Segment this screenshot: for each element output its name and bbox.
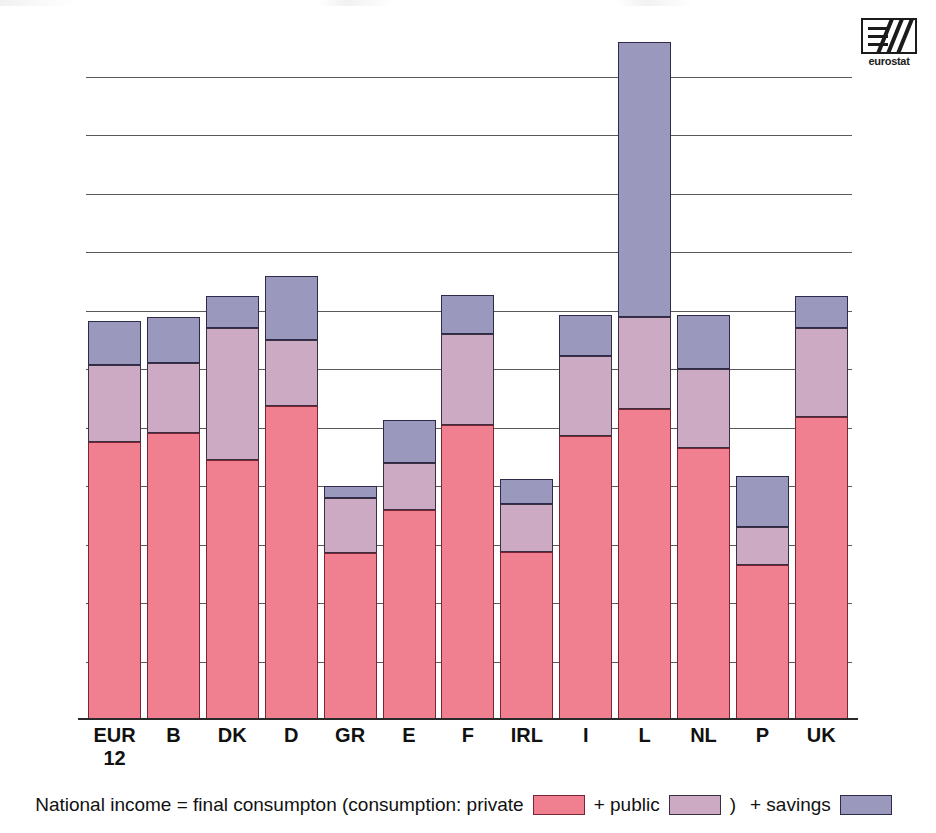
bar-segment-public: [383, 463, 436, 510]
bar-i: [559, 315, 612, 720]
x-axis-label-line: L: [638, 724, 650, 746]
bar-segment-savings: [441, 295, 494, 334]
legend-swatch-private: [533, 795, 585, 815]
gridline: [86, 135, 852, 136]
bar-segment-public: [559, 356, 612, 436]
bar-segment-public: [736, 527, 789, 565]
x-axis-label-line: E: [402, 724, 415, 746]
legend-swatch-savings: [840, 795, 892, 815]
bar-segment-savings: [88, 321, 141, 365]
bar-segment-savings: [736, 476, 789, 527]
bar-segment-private: [383, 510, 436, 721]
x-axis-label-line: DK: [218, 724, 247, 746]
bar-segment-private: [736, 565, 789, 720]
bar-segment-savings: [324, 486, 377, 498]
bar-segment-savings: [618, 42, 671, 317]
bar-segment-savings: [500, 479, 553, 504]
x-axis-category-labels: EUR12BDKDGREFIRLILNLPUK: [86, 724, 852, 778]
legend-swatch-public: [669, 795, 721, 815]
chart-plot-area: [86, 30, 852, 720]
bar-eur-12: [88, 321, 141, 720]
bar-irl: [500, 479, 553, 720]
bars-and-gridlines: [86, 30, 852, 720]
x-axis-label-line: D: [284, 724, 298, 746]
bar-segment-savings: [147, 317, 200, 364]
bar-segment-public: [88, 365, 141, 442]
bar-segment-public: [441, 334, 494, 425]
legend-public-text: + public: [594, 794, 660, 816]
eurostat-logo-mark: [861, 18, 917, 54]
gridline: [86, 77, 852, 78]
x-axis-label-line: IRL: [511, 724, 543, 746]
legend-paren-text: ): [730, 794, 736, 816]
eurostat-logo-caption: eurostat: [856, 55, 922, 67]
bar-segment-private: [206, 460, 259, 720]
scan-artifact-top: [0, 0, 936, 6]
bar-segment-savings: [795, 296, 848, 328]
eurostat-logo: eurostat: [856, 18, 922, 67]
bar-e: [383, 420, 436, 720]
bar-uk: [795, 296, 848, 720]
bar-segment-private: [618, 409, 671, 720]
x-axis-label-line: I: [583, 724, 589, 746]
x-axis-label-line: UK: [807, 724, 836, 746]
bar-segment-public: [677, 369, 730, 448]
x-axis-label-d: D: [260, 724, 322, 747]
bar-gr: [324, 486, 377, 720]
bar-segment-public: [265, 340, 318, 406]
x-axis-label-line: 12: [84, 747, 146, 770]
bar-segment-private: [147, 433, 200, 720]
x-axis-line: [78, 718, 858, 720]
x-axis-label-p: P: [731, 724, 793, 747]
bar-segment-public: [500, 504, 553, 552]
x-axis-label-e: E: [378, 724, 440, 747]
x-axis-label-line: NL: [690, 724, 717, 746]
chart-legend: National income = final consumpton (cons…: [0, 786, 936, 824]
bar-segment-savings: [559, 315, 612, 356]
bar-segment-private: [677, 448, 730, 720]
bar-segment-private: [265, 406, 318, 720]
x-axis-label-dk: DK: [201, 724, 263, 747]
bar-segment-private: [88, 442, 141, 720]
legend-savings-text: + savings: [750, 794, 831, 816]
bar-segment-savings: [677, 315, 730, 369]
x-axis-label-i: I: [555, 724, 617, 747]
bar-p: [736, 476, 789, 720]
legend-prefix-text: National income = final consumpton (cons…: [35, 794, 523, 816]
bar-d: [265, 276, 318, 720]
x-axis-label-gr: GR: [319, 724, 381, 747]
x-axis-label-nl: NL: [673, 724, 735, 747]
bar-segment-public: [618, 317, 671, 409]
x-axis-label-f: F: [437, 724, 499, 747]
bar-segment-savings: [206, 296, 259, 328]
bar-nl: [677, 315, 730, 720]
bar-segment-private: [324, 553, 377, 720]
x-axis-label-line: EUR: [93, 724, 135, 746]
bar-segment-public: [147, 363, 200, 433]
x-axis-label-line: B: [166, 724, 180, 746]
bar-segment-private: [441, 425, 494, 720]
bar-segment-savings: [265, 276, 318, 340]
x-axis-label-eur-12: EUR12: [84, 724, 146, 770]
bar-segment-public: [206, 328, 259, 460]
x-axis-label-uk: UK: [790, 724, 852, 747]
x-axis-label-line: P: [756, 724, 769, 746]
x-axis-label-irl: IRL: [496, 724, 558, 747]
bar-b: [147, 317, 200, 720]
x-axis-label-l: L: [614, 724, 676, 747]
bar-segment-public: [324, 498, 377, 554]
bar-dk: [206, 296, 259, 720]
bar-f: [441, 295, 494, 720]
bar-segment-private: [795, 417, 848, 720]
x-axis-label-b: B: [142, 724, 204, 747]
gridline: [86, 252, 852, 253]
gridline: [86, 194, 852, 195]
x-axis-label-line: GR: [335, 724, 365, 746]
x-axis-label-line: F: [462, 724, 474, 746]
bar-segment-private: [500, 552, 553, 720]
bar-segment-public: [795, 328, 848, 417]
bar-segment-savings: [383, 420, 436, 462]
bar-segment-private: [559, 436, 612, 720]
bar-l: [618, 42, 671, 720]
